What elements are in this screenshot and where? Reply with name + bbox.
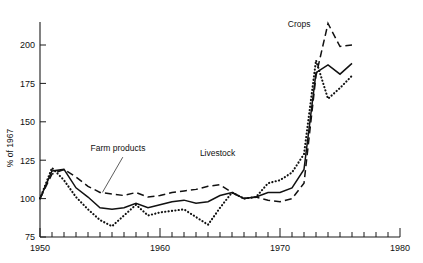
line-chart: 751001251501752001950196019701980 Farm p… bbox=[0, 0, 423, 263]
annotation-livestock: Livestock bbox=[200, 148, 236, 158]
farm-products-leader-line bbox=[102, 157, 122, 192]
x-tick-label: 1970 bbox=[270, 243, 290, 253]
chart-container: 751001251501752001950196019701980 Farm p… bbox=[0, 0, 423, 263]
series-line-farm-products bbox=[40, 63, 352, 209]
series-line-livestock bbox=[40, 60, 352, 226]
y-tick-label: 200 bbox=[20, 40, 35, 50]
y-tick-label: 75 bbox=[25, 232, 35, 242]
y-tick-label: 175 bbox=[20, 79, 35, 89]
y-tick-label: 150 bbox=[20, 117, 35, 127]
x-tick-label: 1960 bbox=[150, 243, 170, 253]
x-tick-label: 1950 bbox=[30, 243, 50, 253]
chart-series bbox=[40, 24, 352, 227]
y-tick-label: 125 bbox=[20, 156, 35, 166]
y-tick-label: 100 bbox=[20, 194, 35, 204]
chart-axes bbox=[40, 22, 400, 237]
series-line-crops bbox=[40, 24, 352, 202]
annotation-farm-products: Farm products bbox=[91, 143, 146, 153]
y-axis-label: % of 1967 bbox=[5, 129, 15, 168]
annotation-crops: Crops bbox=[288, 19, 311, 29]
x-tick-label: 1980 bbox=[390, 243, 410, 253]
chart-annotations: Farm productsLivestockCrops bbox=[91, 19, 311, 193]
